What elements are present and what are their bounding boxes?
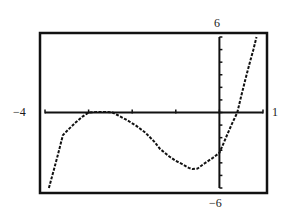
ymax-label: 6 [214, 17, 220, 29]
axes [45, 37, 263, 188]
plot-canvas [0, 0, 293, 218]
ymin-label: −6 [209, 197, 222, 209]
xmin-label: −4 [13, 106, 26, 118]
xmax-label: 1 [272, 106, 278, 118]
graphing-calculator-plot: 6 −6 −4 1 [0, 0, 293, 218]
